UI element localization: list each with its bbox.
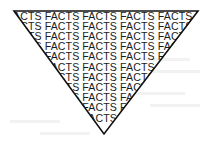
ghost-mark xyxy=(10,120,60,123)
ghost-mark xyxy=(150,104,200,107)
ghost-mark xyxy=(40,132,90,135)
ghost-mark xyxy=(150,70,200,73)
facts-triangle-figure: FACTS FACTS FACTS FACTS FACTS FACTS FACT… xyxy=(0,0,212,146)
ghost-mark xyxy=(135,92,185,95)
